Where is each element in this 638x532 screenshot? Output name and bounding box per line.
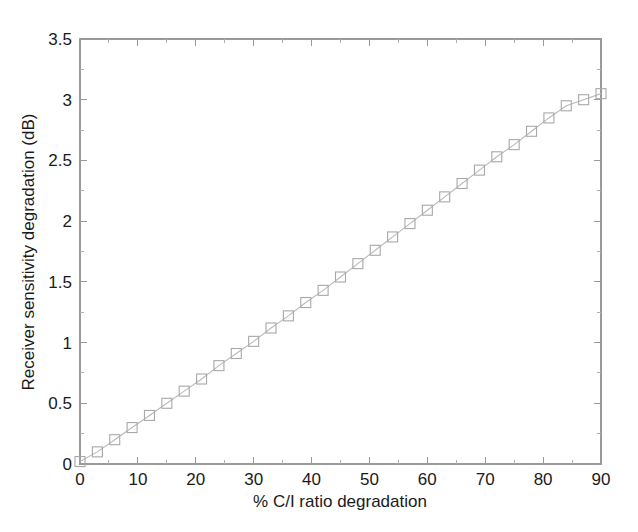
figure-canvas: 0102030405060708090 00.511.522.533.5 % C… [0, 0, 638, 532]
y-tick-label: 1.5 [48, 273, 72, 292]
x-tick-label: 30 [244, 470, 263, 489]
chart-plot: 0102030405060708090 00.511.522.533.5 % C… [0, 0, 638, 532]
x-tick-label: 0 [75, 470, 84, 489]
x-tick-label: 80 [534, 470, 553, 489]
x-tick-label: 70 [476, 470, 495, 489]
x-axis-title: % C/I ratio degradation [253, 492, 427, 511]
y-tick-label: 3.5 [48, 30, 72, 49]
x-tick-label: 10 [128, 470, 147, 489]
y-tick-label: 0 [63, 455, 72, 474]
y-tick-label: 2.5 [48, 151, 72, 170]
y-axis-title: Receiver sensitivity degradation (dB) [19, 114, 38, 391]
x-tick-label: 20 [186, 470, 205, 489]
x-tick-label: 90 [592, 470, 611, 489]
y-tick-label: 3 [63, 91, 72, 110]
x-tick-label: 50 [360, 470, 379, 489]
y-tick-label: 0.5 [48, 394, 72, 413]
x-tick-label: 40 [302, 470, 321, 489]
y-tick-label: 1 [63, 334, 72, 353]
x-tick-label: 60 [418, 470, 437, 489]
y-tick-label: 2 [63, 212, 72, 231]
